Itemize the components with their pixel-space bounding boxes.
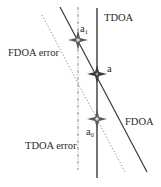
fdoa-error-label: FDOA error [8,48,59,59]
point-a1-label: a1 [80,24,88,36]
point-a0-subscript: 0 [91,131,94,138]
tdoa-label: TDOA [104,13,133,24]
point-a0-label: a0 [86,127,94,139]
point-a1-subscript: 1 [85,28,88,35]
point-a-star-icon [87,65,107,83]
tdoa-error-label: TDOA error [25,141,77,152]
diagram-canvas: TDOA a1 FDOA error a FDOA a0 TDOA error [0,0,161,187]
fdoa-label: FDOA [125,117,154,128]
point-a-label: a [107,64,112,75]
